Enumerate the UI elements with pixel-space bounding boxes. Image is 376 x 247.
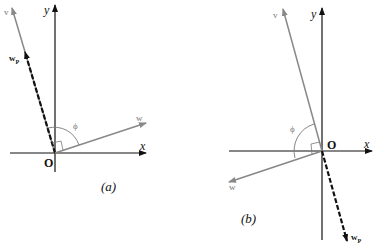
angle-label-b: ϕ — [290, 125, 295, 134]
caption-b: (b) — [241, 212, 256, 225]
origin-label-b: O — [327, 139, 336, 151]
wp-label-b: wP — [351, 233, 361, 244]
wp-label-b-sub: P — [358, 238, 362, 244]
wp-label-a-sub: P — [16, 59, 20, 65]
vector-projection-diagrams — [0, 0, 376, 247]
vector-v-b — [283, 9, 322, 151]
x-axis-label-a: x — [140, 140, 145, 152]
caption-a: (a) — [101, 180, 116, 193]
figure-b — [229, 8, 372, 241]
w-label-a: w — [136, 114, 143, 123]
w-label-b: w — [229, 183, 236, 192]
y-axis-label-b: y — [311, 8, 316, 20]
vector-w-a — [55, 123, 146, 153]
vector-w-b — [229, 151, 322, 182]
v-label-b: v — [273, 11, 278, 20]
angle-arc-b — [294, 124, 314, 158]
origin-label-a: O — [44, 157, 53, 169]
v-label-a: v — [4, 8, 9, 17]
figure-a — [10, 5, 146, 172]
x-axis-label-b: x — [364, 138, 369, 150]
wp-label-a: wP — [9, 54, 19, 65]
angle-label-a: ϕ — [73, 122, 78, 131]
y-axis-label-a: y — [44, 4, 49, 16]
vector-wp-a — [25, 52, 55, 153]
vector-wp-b — [322, 151, 347, 241]
